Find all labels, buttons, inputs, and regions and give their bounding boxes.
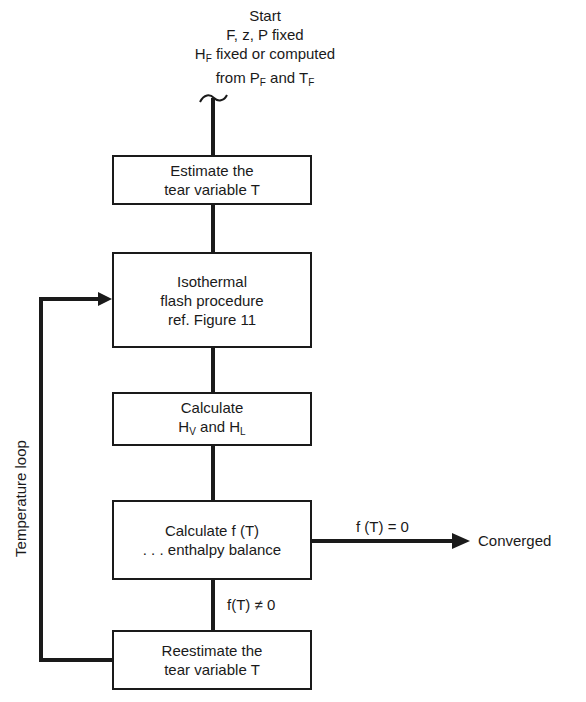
loop-vertical-segment	[39, 297, 43, 662]
box-text: Reestimate the	[162, 641, 263, 660]
connector-ft-reestimate	[211, 580, 215, 630]
temperature-loop-label: Temperature loop	[12, 429, 29, 569]
converged-label: Converged	[478, 532, 551, 549]
box-text: flash procedure	[160, 291, 263, 310]
loop-bottom-segment	[39, 658, 112, 662]
box-text: tear variable T	[164, 660, 260, 679]
converged-arrow-line	[312, 539, 454, 543]
box-text: ref. Figure 11	[168, 310, 256, 329]
connectors	[0, 0, 586, 702]
estimate-tear-variable-box: Estimate the tear variable T	[112, 155, 312, 205]
converged-condition-label: f (T) = 0	[356, 518, 409, 535]
loop-arrowhead-icon	[98, 292, 112, 306]
reestimate-tear-variable-box: Reestimate the tear variable T	[112, 630, 312, 690]
isothermal-flash-box: Isothermal flash procedure ref. Figure 1…	[112, 252, 312, 348]
box-text: Calculate	[181, 398, 244, 417]
not-converged-condition-label: f(T) ≠ 0	[227, 596, 275, 613]
loop-top-segment	[39, 297, 99, 301]
calculate-ft-box: Calculate f (T) . . . enthalpy balance	[112, 500, 312, 580]
box-text: HV and HL	[178, 417, 245, 441]
box-text: tear variable T	[164, 180, 260, 199]
connector-start-estimate	[211, 98, 215, 155]
connector-estimate-flash	[211, 205, 215, 252]
connector-flash-enthalpy	[211, 348, 215, 392]
calculate-enthalpies-box: Calculate HV and HL	[112, 392, 312, 446]
box-text: Estimate the	[170, 161, 253, 180]
converged-arrowhead-icon	[452, 533, 470, 549]
box-text: Isothermal	[177, 272, 247, 291]
box-text: Calculate f (T)	[165, 521, 259, 540]
connector-enthalpy-ft	[211, 446, 215, 500]
box-text: . . . enthalpy balance	[143, 540, 281, 559]
